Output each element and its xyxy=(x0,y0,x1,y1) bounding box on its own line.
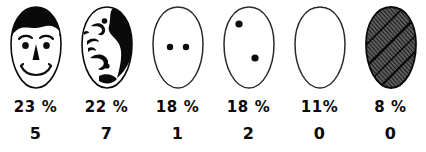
percent-label-4: 18 % xyxy=(227,98,271,116)
percent-label-cell-3: 18 % xyxy=(142,97,213,123)
count-labels-row: 5 7 1 2 0 0 xyxy=(0,122,426,152)
head-outline xyxy=(295,7,345,88)
face-empty-oval-drawing xyxy=(290,4,350,94)
percent-label-3: 18 % xyxy=(156,98,200,116)
face-drawings-row xyxy=(0,0,426,96)
face-cell-5 xyxy=(284,0,355,96)
dot-right xyxy=(182,44,188,50)
face-cell-3 xyxy=(142,0,213,96)
blob-dot-lower xyxy=(104,63,109,68)
count-label-5: 0 xyxy=(314,124,326,143)
count-label-cell-3: 1 xyxy=(142,122,213,152)
eye-right xyxy=(43,42,50,49)
count-label-3: 1 xyxy=(172,124,184,143)
face-cell-6 xyxy=(355,0,426,96)
count-label-cell-1: 5 xyxy=(0,122,71,152)
mouth-corner-left xyxy=(21,64,23,66)
dot-upper-left xyxy=(235,20,242,27)
percent-label-5: 11% xyxy=(301,98,339,116)
percent-label-1: 23 % xyxy=(14,98,58,116)
eye-left xyxy=(22,42,29,49)
head-outline xyxy=(153,7,203,88)
face-cell-4 xyxy=(213,0,284,96)
count-label-cell-5: 0 xyxy=(284,122,355,152)
percent-label-cell-4: 18 % xyxy=(213,97,284,123)
head-outline xyxy=(224,7,274,88)
count-label-cell-6: 0 xyxy=(355,122,426,152)
blob-dot-upper xyxy=(101,18,107,24)
face-fragmented-drawing xyxy=(77,4,137,94)
face-two-dots-diagonal-drawing xyxy=(219,4,279,94)
dot-lower-right xyxy=(251,54,258,61)
percentage-labels-row: 23 % 22 % 18 % 18 % 11% 8 % xyxy=(0,97,426,123)
count-label-1: 5 xyxy=(30,124,42,143)
face-cell-1 xyxy=(0,0,71,96)
dot-left xyxy=(166,44,172,50)
count-label-2: 7 xyxy=(101,124,113,143)
count-label-6: 0 xyxy=(385,124,397,143)
percent-label-cell-5: 11% xyxy=(284,97,355,123)
face-two-eyes-horizontal-drawing xyxy=(148,4,208,94)
percent-label-cell-6: 8 % xyxy=(355,97,426,123)
percent-label-cell-2: 22 % xyxy=(71,97,142,123)
mouth-corner-right xyxy=(49,64,51,66)
percent-label-6: 8 % xyxy=(374,98,407,116)
count-label-4: 2 xyxy=(243,124,255,143)
face-complete-drawing xyxy=(6,4,66,94)
face-cell-2 xyxy=(71,0,142,96)
percent-label-2: 22 % xyxy=(85,98,129,116)
figure-face-series: 23 % 22 % 18 % 18 % 11% 8 % 5 7 1 2 xyxy=(0,0,426,152)
count-label-cell-2: 7 xyxy=(71,122,142,152)
face-hatched-oval-drawing xyxy=(361,4,421,94)
percent-label-cell-1: 23 % xyxy=(0,97,71,123)
count-label-cell-4: 2 xyxy=(213,122,284,152)
